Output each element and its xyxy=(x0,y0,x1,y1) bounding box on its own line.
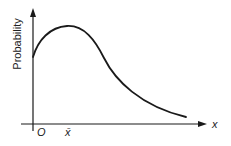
x-axis-label: x xyxy=(211,118,218,130)
y-axis-label: Probability xyxy=(11,18,23,70)
probability-chart: Probability x O x̄ xyxy=(0,0,231,146)
y-axis-arrow-icon xyxy=(30,8,36,17)
mean-label: x̄ xyxy=(64,126,71,138)
origin-label: O xyxy=(37,126,46,138)
x-axis-arrow-icon xyxy=(198,121,207,127)
probability-curve xyxy=(33,26,186,117)
